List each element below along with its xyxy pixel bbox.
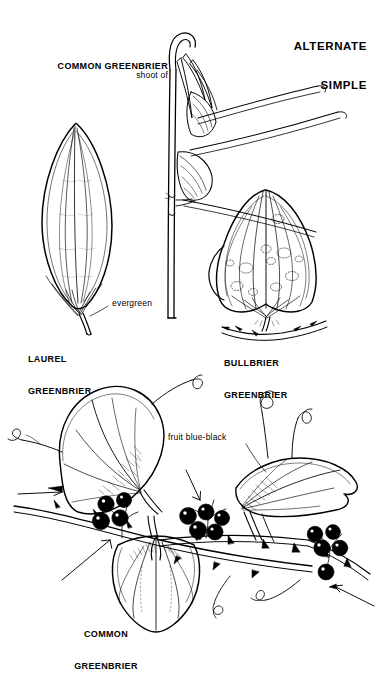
- common-greenbrier-caption: COMMON GREENBRIER: [60, 608, 152, 673]
- laurel-leaf-icon: [42, 123, 112, 335]
- laurel-greenbrier-caption: LAUREL GREENBRIER: [28, 333, 92, 417]
- fruit-color-annotation: fruit blue-black: [168, 432, 226, 442]
- berry-cluster-center: [180, 500, 230, 540]
- laurel-caption-line2: GREENBRIER: [28, 386, 92, 397]
- bullbrier-caption-line2: GREENBRIER: [224, 390, 288, 401]
- berry-cluster-right: [307, 525, 348, 580]
- berry-cluster-left: [92, 492, 138, 538]
- bullbrier-caption-line1: BULLBRIER: [224, 358, 288, 369]
- laurel-caption-line1: LAUREL: [28, 354, 92, 365]
- bullbrier-leaf-icon: [209, 190, 327, 340]
- shoot-annotation-species: COMMON GREENBRIER: [36, 61, 168, 72]
- shoot-annotation: shoot of: [36, 50, 168, 100]
- common-caption-line2: GREENBRIER: [60, 661, 152, 672]
- bullbrier-greenbrier-caption: BULLBRIER GREENBRIER: [224, 337, 288, 421]
- evergreen-annotation: evergreen: [112, 298, 152, 308]
- plate-heading-line1: ALTERNATE: [207, 40, 367, 53]
- shoot-annotation-line1: shoot of: [36, 70, 168, 80]
- common-caption-line1: COMMON: [60, 629, 152, 640]
- plate-heading-line2: SIMPLE: [207, 79, 367, 92]
- plate-heading: ALTERNATE SIMPLE: [207, 14, 367, 118]
